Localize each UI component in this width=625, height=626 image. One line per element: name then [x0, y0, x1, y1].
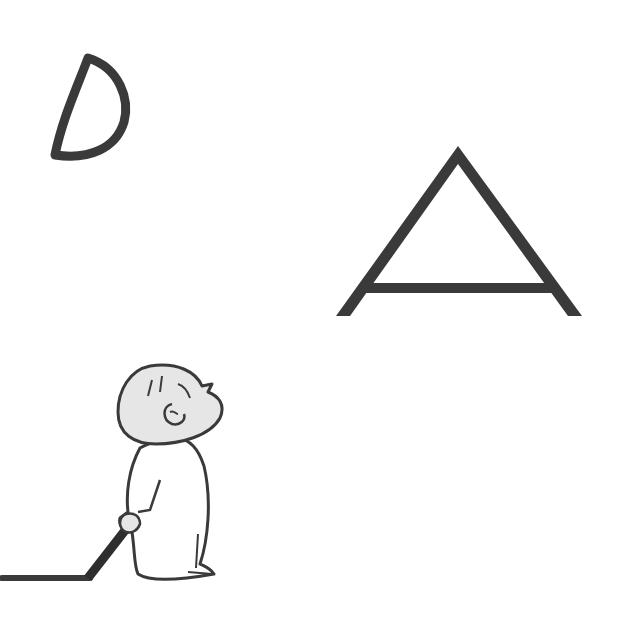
child-hand [120, 513, 140, 532]
illustration-canvas [0, 0, 625, 626]
triangle-icon [336, 146, 582, 316]
child-body [120, 438, 214, 579]
crescent-moon-icon [55, 58, 126, 156]
child-figure [120, 438, 214, 579]
child-head [118, 365, 222, 444]
illustration-svg [0, 0, 625, 626]
